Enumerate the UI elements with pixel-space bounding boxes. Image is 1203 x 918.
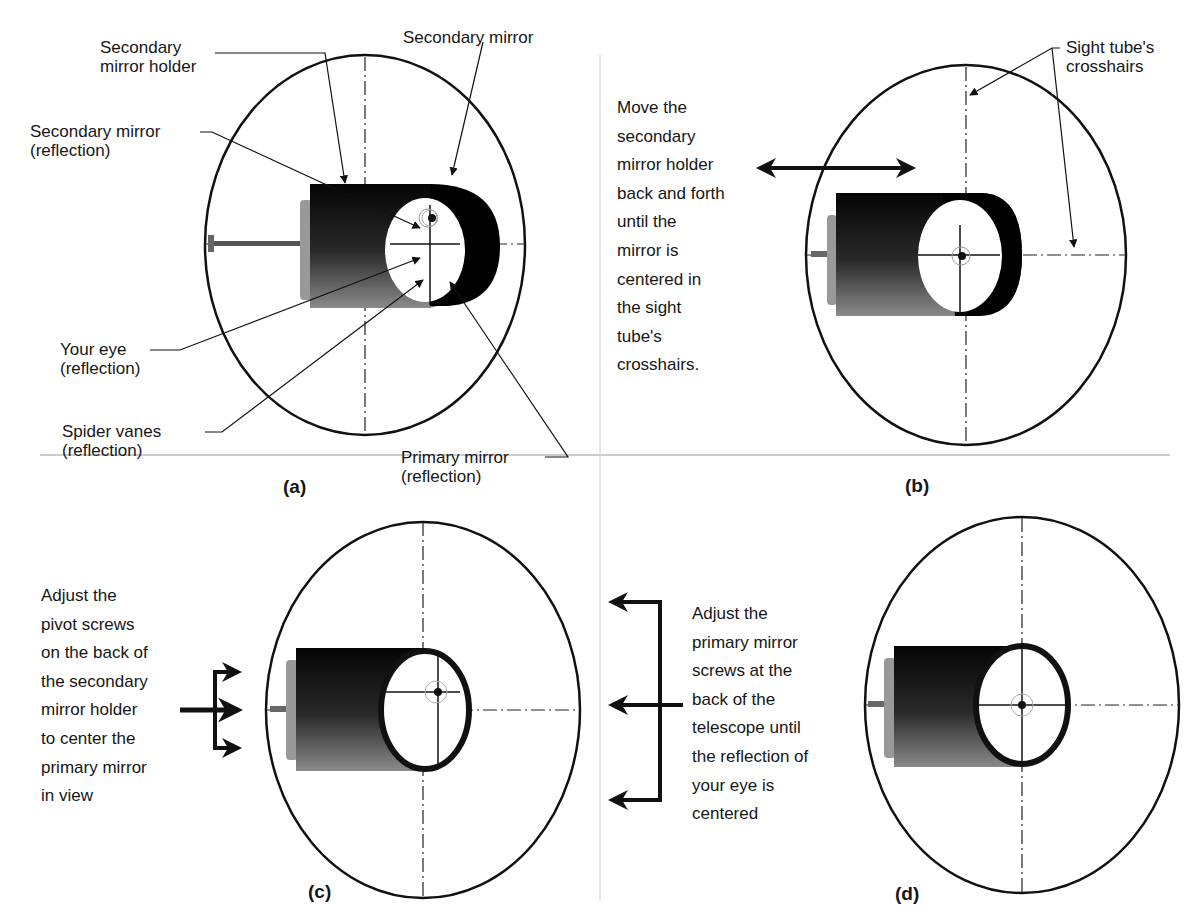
- eye-reflection-icon: [1018, 701, 1026, 709]
- caption-d: (d): [895, 883, 919, 905]
- instruction-b: Move the secondary mirror holder back an…: [617, 94, 725, 380]
- caption-a: (a): [283, 476, 306, 498]
- instruction-c: Adjust the pivot screws on the back of t…: [41, 582, 148, 811]
- collimation-diagram: [0, 0, 1203, 918]
- label-your-eye-reflection: Your eye (reflection): [60, 340, 140, 378]
- panel-a: [150, 42, 568, 457]
- panel-c: [180, 522, 580, 898]
- eye-reflection-icon: [958, 252, 966, 260]
- panel-b: [760, 48, 1126, 445]
- label-secondary-mirror-reflection: Secondary mirror (reflection): [30, 122, 160, 160]
- bracket: [640, 602, 660, 800]
- label-primary-mirror-reflection: Primary mirror (reflection): [401, 448, 509, 486]
- eye-reflection-icon: [428, 214, 436, 222]
- label-sight-tube-crosshairs: Sight tube's crosshairs: [1066, 38, 1154, 76]
- eye-reflection-icon: [434, 688, 442, 696]
- label-spider-vanes-reflection: Spider vanes (reflection): [62, 422, 161, 460]
- label-secondary-mirror: Secondary mirror: [403, 28, 533, 47]
- caption-c: (c): [308, 881, 331, 903]
- primary-mirror-ring: [381, 651, 469, 769]
- instruction-d: Adjust the primary mirror screws at the …: [692, 600, 808, 829]
- focuser-stem: [212, 241, 308, 246]
- label-secondary-mirror-holder: Secondary mirror holder: [100, 38, 196, 76]
- caption-b: (b): [905, 475, 929, 497]
